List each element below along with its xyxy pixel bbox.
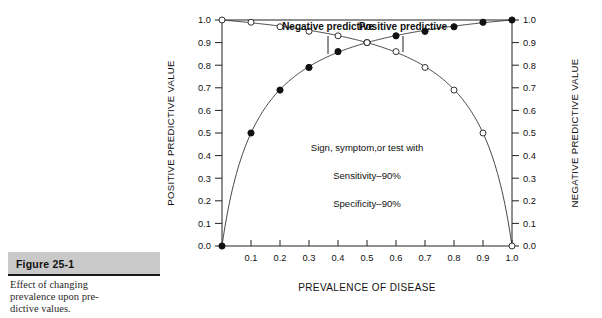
x-tick-label: 0.9 — [477, 253, 490, 263]
series-line — [222, 20, 512, 246]
left-tick-label: 0.1 — [198, 219, 211, 229]
right-tick-label: 1.0 — [523, 15, 536, 25]
x-tick-label: 0.1 — [245, 253, 258, 263]
positive-predictive-label: Positive predictive — [359, 21, 448, 32]
x-tick-label: 0.3 — [303, 253, 316, 263]
data-point-filled — [335, 49, 341, 55]
right-tick-label: 0.5 — [523, 128, 536, 138]
data-point-open — [248, 19, 254, 25]
x-tick-label: 0.4 — [332, 253, 345, 263]
right-axis-title: NEGATIVE PREDICTIVE VALUE — [569, 59, 580, 208]
left-tick-label: 0.7 — [198, 83, 211, 93]
x-axis-ticks: 0.10.20.30.40.50.60.70.80.91.0 — [245, 240, 519, 263]
x-tick-label: 0.7 — [419, 253, 432, 263]
right-axis-ticks: 0.00.10.20.30.40.50.60.70.80.91.0 — [512, 15, 536, 251]
data-point-open — [393, 49, 399, 55]
right-tick-label: 0.1 — [523, 219, 536, 229]
left-axis-ticks: 0.00.10.20.30.40.50.60.70.80.91.0 — [198, 15, 222, 251]
left-tick-label: 0.4 — [198, 151, 211, 161]
caption-line-3: dictive values. — [10, 303, 156, 315]
chart-area: 0.00.10.20.30.40.50.60.70.80.91.0 0.00.1… — [160, 6, 602, 306]
data-point-open — [480, 130, 486, 136]
x-tick-label: 1.0 — [506, 253, 519, 263]
note-line-2: Sensitivity–90% — [333, 170, 401, 181]
left-tick-label: 0.6 — [198, 106, 211, 116]
data-point-filled — [219, 243, 225, 249]
left-tick-label: 0.3 — [198, 174, 211, 184]
right-tick-label: 0.2 — [523, 196, 536, 206]
caption-line-2: prevalence upon pre- — [10, 291, 156, 303]
data-point-filled — [306, 64, 312, 70]
data-point-filled — [509, 17, 515, 23]
figure-caption-block: Figure 25-1 Effect of changing prevalenc… — [8, 252, 160, 316]
data-point-filled — [480, 19, 486, 25]
data-point-filled — [451, 24, 457, 30]
right-tick-label: 0.8 — [523, 61, 536, 71]
right-tick-label: 0.6 — [523, 106, 536, 116]
data-point-open — [422, 64, 428, 70]
figure-number-bar: Figure 25-1 — [8, 252, 160, 276]
right-tick-label: 0.9 — [523, 38, 536, 48]
predictive-value-chart: 0.00.10.20.30.40.50.60.70.80.91.0 0.00.1… — [160, 6, 602, 306]
data-curves — [222, 20, 512, 246]
right-tick-label: 0.7 — [523, 83, 536, 93]
caption-line-1: Effect of changing — [10, 279, 156, 291]
note-line-3: Specificity–90% — [333, 198, 401, 209]
data-point-open — [335, 33, 341, 39]
left-tick-label: 0.8 — [198, 61, 211, 71]
right-tick-label: 0.0 — [523, 241, 536, 251]
data-point-open — [509, 243, 515, 249]
left-tick-label: 0.2 — [198, 196, 211, 206]
note-line-1: Sign, symptom,or test with — [311, 142, 424, 153]
data-markers — [219, 17, 515, 249]
left-tick-label: 0.9 — [198, 38, 211, 48]
data-point-open — [451, 87, 457, 93]
plot-frame — [222, 20, 512, 246]
left-axis-title: POSITIVE PREDICTIVE VALUE — [165, 60, 176, 205]
x-tick-label: 0.2 — [274, 253, 287, 263]
x-tick-label: 0.8 — [448, 253, 461, 263]
right-tick-label: 0.3 — [523, 174, 536, 184]
left-tick-label: 0.0 — [198, 241, 211, 251]
right-tick-label: 0.4 — [523, 151, 536, 161]
left-tick-label: 1.0 — [198, 15, 211, 25]
x-tick-label: 0.5 — [361, 253, 374, 263]
figure-caption-text: Effect of changing prevalence upon pre- … — [8, 276, 160, 316]
data-point-filled — [248, 130, 254, 136]
data-point-filled — [393, 33, 399, 39]
figure-number: Figure 25-1 — [16, 258, 74, 270]
figure-root: Figure 25-1 Effect of changing prevalenc… — [0, 0, 602, 318]
x-axis-title: PREVALENCE OF DISEASE — [298, 282, 436, 293]
left-tick-label: 0.5 — [198, 128, 211, 138]
data-point-open — [219, 17, 225, 23]
x-tick-label: 0.6 — [390, 253, 403, 263]
series-line — [222, 20, 512, 246]
data-point-open — [364, 40, 370, 46]
data-point-filled — [277, 87, 283, 93]
